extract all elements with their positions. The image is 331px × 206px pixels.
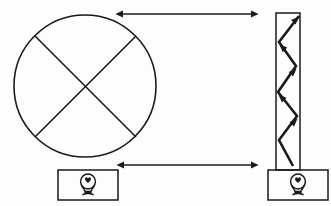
bulb-socket (82, 194, 93, 195)
light-bulb-icon (81, 174, 96, 195)
beam-assembly (268, 13, 328, 200)
bulb-socket (292, 194, 303, 195)
bulb-filament (295, 177, 301, 183)
technical-diagram (0, 0, 331, 206)
lamp-base-left (58, 170, 118, 200)
zigzag-load-path (278, 16, 299, 166)
zigzag-polyline (278, 16, 299, 166)
wheel-assembly (14, 15, 156, 200)
light-bulb-icon (291, 174, 306, 195)
bulb-filament (85, 177, 91, 183)
lamp-base-right (268, 170, 328, 200)
diagram-canvas (0, 0, 331, 206)
